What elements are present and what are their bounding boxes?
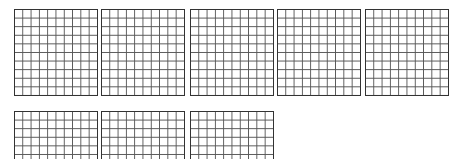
hundred-grid-6 bbox=[14, 111, 98, 159]
hundred-grid-3 bbox=[190, 9, 274, 96]
hundred-grid-1 bbox=[14, 9, 98, 96]
hundred-grid-2 bbox=[101, 9, 185, 96]
hundred-grid-8 bbox=[190, 111, 274, 159]
hundred-grid-5 bbox=[365, 9, 449, 96]
hundred-grid-7 bbox=[101, 111, 185, 159]
hundred-grid-4 bbox=[277, 9, 361, 96]
